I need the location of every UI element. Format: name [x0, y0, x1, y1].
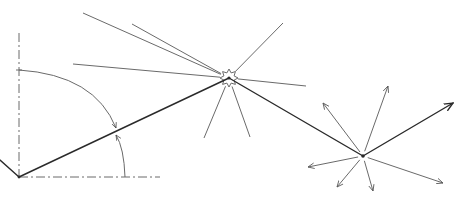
angle-from-horizontal-arc: [116, 135, 125, 177]
outgoing-arrow: [308, 157, 358, 167]
incoming-ray: [83, 13, 221, 74]
incoming-ray: [235, 23, 283, 72]
incoming-ray: [204, 86, 226, 138]
incoming-ray: [232, 86, 250, 137]
outgoing-arrow: [337, 160, 360, 187]
main-ray-segment: [229, 78, 363, 156]
scatterer-star: [73, 13, 306, 138]
outgoing-arrow: [364, 161, 373, 191]
emitter-dot: [361, 154, 365, 158]
scatterer-dot: [227, 76, 230, 79]
outgoing-arrow: [365, 86, 388, 151]
angle-arcs: [19, 70, 125, 177]
origin-dot: [18, 176, 21, 179]
main-ray-segment: [363, 103, 453, 156]
incoming-ray: [132, 24, 221, 74]
incoming-ray: [73, 64, 220, 77]
outgoing-arrow: [323, 103, 360, 152]
emitter-arrows: [308, 86, 443, 191]
reference-axes: [16, 33, 160, 177]
main-ray-segment: [0, 160, 19, 177]
angle-from-vertical-arc: [19, 70, 116, 128]
incoming-ray: [238, 79, 306, 86]
scattering-diagram: [0, 0, 463, 199]
outgoing-arrow: [368, 158, 443, 183]
